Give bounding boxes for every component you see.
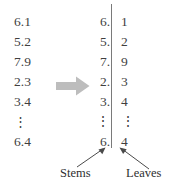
leaf-value: 4 <box>113 92 147 112</box>
stem-leaf-divider <box>111 4 112 148</box>
raw-data-value: 5.2 <box>14 32 54 52</box>
stem-leaf-row: 6. 1 <box>84 12 170 32</box>
stems-label: Stems <box>60 166 91 181</box>
leaf-value: 1 <box>113 12 147 32</box>
stem-value: 2. <box>84 72 113 92</box>
leaf-value: 2 <box>113 32 147 52</box>
stem-leaf-row: 2. 3 <box>84 72 170 92</box>
stem-value: 6. <box>84 12 113 32</box>
stem-value: 5. <box>84 32 113 52</box>
stem-leaf-row: 6. 4 <box>84 132 170 152</box>
raw-data-value: 7.9 <box>14 52 54 72</box>
raw-data-value: 6.1 <box>14 12 54 32</box>
raw-data-value: 3.4 <box>14 92 54 112</box>
raw-data-column: 6.1 5.2 7.9 2.3 3.4 ⋮ 6.4 <box>14 12 54 152</box>
raw-data-value: 6.4 <box>14 132 54 152</box>
stem-leaf-row: 5. 2 <box>84 32 170 52</box>
raw-data-value: 2.3 <box>14 72 54 92</box>
stem-value: 3. <box>84 92 113 112</box>
leaf-value: 4 <box>113 132 147 152</box>
stem-leaf-row: 3. 4 <box>84 92 170 112</box>
raw-data-ellipsis: ⋮ <box>14 112 54 132</box>
stem-leaf-plot: 6. 1 5. 2 7. 9 2. 3 3. 4 ⋮ ⋮ 6. 4 <box>84 12 170 152</box>
stem-value: 7. <box>84 52 113 72</box>
stem-ellipsis: ⋮ <box>84 112 113 132</box>
leaves-label: Leaves <box>126 166 161 181</box>
leaf-ellipsis: ⋮ <box>113 112 147 132</box>
stem-leaf-row: 7. 9 <box>84 52 170 72</box>
stem-leaf-ellipsis-row: ⋮ ⋮ <box>84 112 170 132</box>
stem-and-leaf-figure: 6.1 5.2 7.9 2.3 3.4 ⋮ 6.4 6. 1 5. 2 7. 9… <box>0 0 174 184</box>
stem-value: 6. <box>84 132 113 152</box>
leaf-value: 9 <box>113 52 147 72</box>
leaf-value: 3 <box>113 72 147 92</box>
